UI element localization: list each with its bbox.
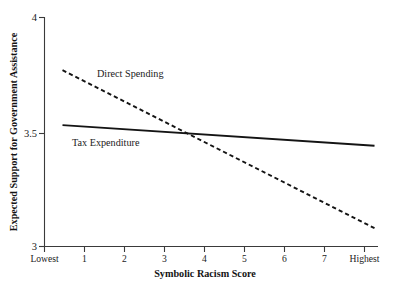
y-tick-label-bottom: 3 <box>32 241 37 252</box>
x-tick-label-lowest: Lowest <box>30 253 59 264</box>
x-tick-label-5: 5 <box>242 253 247 264</box>
series-label-tax-expenditure: Tax Expenditure <box>72 137 140 148</box>
x-tick-label-2: 2 <box>122 253 127 264</box>
x-tick-label-1: 1 <box>82 253 87 264</box>
symbolic-racism-line-chart: 4 3.5 3 Lowest 1 2 3 4 5 6 7 Highest Dir… <box>0 0 405 285</box>
series-line-direct-spending <box>63 70 375 228</box>
x-tick-label-7: 7 <box>322 253 327 264</box>
series-label-direct-spending: Direct Spending <box>97 68 164 79</box>
x-tick-label-6: 6 <box>282 253 287 264</box>
x-tick-label-highest: Highest <box>350 253 380 264</box>
x-tick-label-3: 3 <box>162 253 167 264</box>
x-tick-label-4: 4 <box>202 253 207 264</box>
y-axis-title: Expected Support for Government Assistan… <box>8 32 19 231</box>
chart-figure: 4 3.5 3 Lowest 1 2 3 4 5 6 7 Highest Dir… <box>0 0 405 285</box>
x-axis-title: Symbolic Racism Score <box>154 268 256 279</box>
y-tick-label-middle: 3.5 <box>24 128 37 139</box>
y-tick-label-top: 4 <box>32 12 38 23</box>
